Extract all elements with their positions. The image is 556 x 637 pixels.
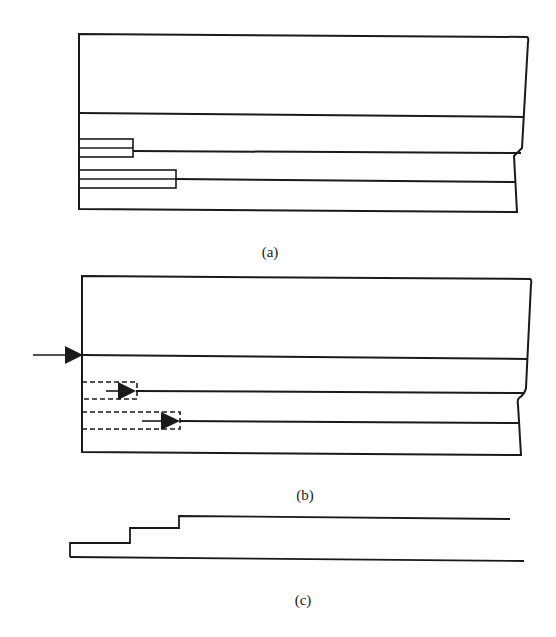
panel-b-line-3 xyxy=(180,421,519,423)
panel-a-line-3 xyxy=(176,179,516,182)
panel-c-step-profile xyxy=(70,516,510,557)
caption-b: (b) xyxy=(296,487,314,504)
diagram-canvas xyxy=(0,0,556,637)
panel-a-main-divider xyxy=(79,113,524,117)
panel-a-line-2 xyxy=(133,151,521,153)
panel-c xyxy=(70,516,524,561)
panel-b-line-2 xyxy=(136,391,523,393)
caption-c: (c) xyxy=(295,592,312,609)
panel-a-outline xyxy=(79,34,528,212)
panel-a xyxy=(79,34,528,212)
panel-b xyxy=(33,276,531,455)
panel-b-arrow-2-icon xyxy=(161,412,180,430)
caption-a: (a) xyxy=(262,244,279,261)
panel-b-entry-arrow-icon xyxy=(65,346,83,364)
panel-b-main-divider xyxy=(82,355,527,359)
panel-b-outline xyxy=(82,276,531,455)
panel-b-arrow-1-icon xyxy=(118,382,136,400)
panel-c-baseline xyxy=(70,557,524,561)
